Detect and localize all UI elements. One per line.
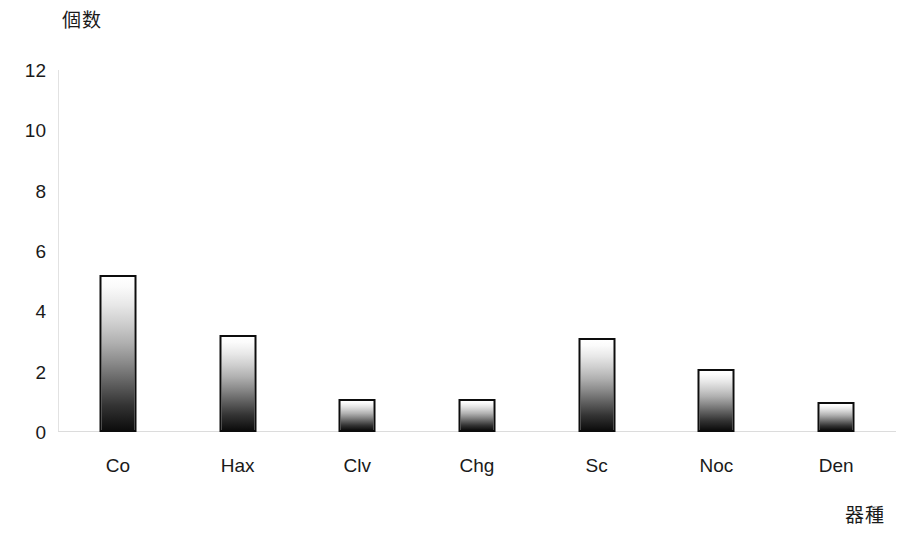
x-tick-label: Den bbox=[819, 455, 854, 477]
bar-slot bbox=[178, 70, 298, 432]
y-axis-title: 個数 bbox=[62, 8, 101, 34]
bar-hax[interactable] bbox=[219, 335, 256, 432]
bar-chg[interactable] bbox=[458, 399, 495, 432]
x-tick-label: Chg bbox=[460, 455, 495, 477]
y-tick-label: 4 bbox=[2, 302, 46, 321]
x-axis-title: 器種 bbox=[845, 503, 884, 529]
x-axis-tick-labels: CoHaxClvChgScNocDen bbox=[58, 455, 896, 485]
y-tick-label: 12 bbox=[2, 61, 46, 80]
y-tick-label: 0 bbox=[2, 423, 46, 442]
x-tick-label: Noc bbox=[700, 455, 734, 477]
bar-sc[interactable] bbox=[578, 338, 615, 432]
bar-noc[interactable] bbox=[698, 369, 735, 432]
x-tick-label: Clv bbox=[344, 455, 371, 477]
bar-co[interactable] bbox=[99, 275, 136, 432]
y-tick-label: 10 bbox=[2, 121, 46, 140]
bar-slot bbox=[657, 70, 777, 432]
bar-slot bbox=[417, 70, 537, 432]
bar-slot bbox=[537, 70, 657, 432]
bar-den[interactable] bbox=[818, 402, 855, 432]
bar-series bbox=[58, 70, 896, 432]
y-tick-label: 2 bbox=[2, 362, 46, 381]
caption-fragment bbox=[150, 548, 770, 555]
y-tick-label: 8 bbox=[2, 181, 46, 200]
bar-slot bbox=[297, 70, 417, 432]
y-tick-label: 6 bbox=[2, 242, 46, 261]
bar-slot bbox=[776, 70, 896, 432]
bar-slot bbox=[58, 70, 178, 432]
x-tick-label: Hax bbox=[221, 455, 255, 477]
bar-clv[interactable] bbox=[339, 399, 376, 432]
y-axis-tick-labels: 024681012 bbox=[0, 70, 46, 432]
x-tick-label: Sc bbox=[586, 455, 608, 477]
bar-chart-figure: 個数 024681012 CoHaxClvChgScNocDen 器種 bbox=[0, 0, 902, 555]
plot-area: 024681012 bbox=[58, 70, 896, 432]
x-tick-label: Co bbox=[106, 455, 130, 477]
